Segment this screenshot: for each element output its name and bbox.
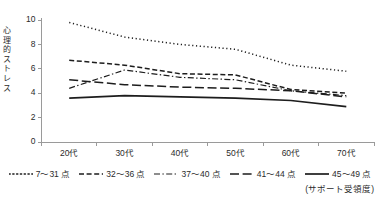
chart-legend: 7〜31 点32〜36 点37〜40 点41〜44 点45〜49 点 [0, 166, 380, 182]
x-tick-label: 20代 [60, 148, 78, 158]
x-axis-tick-labels: 20代30代40代50代60代70代 [60, 148, 356, 158]
legend-label: 32〜36 点 [106, 169, 145, 179]
legend-item: 32〜36 点 [79, 169, 145, 179]
data-series-group [69, 22, 346, 106]
legend-label: 37〜40 点 [181, 169, 220, 179]
legend-line-sample-1 [9, 170, 33, 178]
legend-item: 45〜49 点 [305, 169, 371, 179]
y-tick-label: 2 [31, 112, 36, 122]
legend-line-sample-5 [305, 170, 329, 178]
legend-line-sample-3 [154, 170, 178, 178]
legend-line-sample-4 [230, 170, 254, 178]
x-tick-label: 60代 [282, 148, 300, 158]
series-line-4 [69, 80, 346, 97]
legend-label: 7〜31 点 [36, 169, 71, 179]
chart-figure: 心理的ストレス 0246810 20代30代40代50代60代70代 7〜31 … [0, 0, 380, 201]
y-tick-label: 8 [31, 39, 36, 49]
x-tick-label: 40代 [171, 148, 189, 158]
legend-item: 7〜31 点 [9, 169, 71, 179]
y-tick-label: 0 [31, 136, 36, 146]
legend-caption: (サポート受領度) [305, 184, 374, 195]
y-tick-label: 4 [31, 87, 36, 97]
y-tick-label: 6 [31, 63, 36, 73]
y-axis-ticks: 0246810 [26, 14, 41, 146]
x-tick-label: 70代 [337, 148, 355, 158]
y-tick-label: 10 [26, 14, 36, 24]
legend-item: 41〜44 点 [230, 169, 296, 179]
series-line-5 [69, 96, 346, 107]
legend-label: 45〜49 点 [332, 169, 371, 179]
legend-item: 37〜40 点 [154, 169, 220, 179]
x-axis-ticks [42, 142, 375, 146]
x-tick-label: 50代 [226, 148, 244, 158]
legend-label: 41〜44 点 [257, 169, 296, 179]
legend-line-sample-2 [79, 170, 103, 178]
x-tick-label: 30代 [115, 148, 133, 158]
